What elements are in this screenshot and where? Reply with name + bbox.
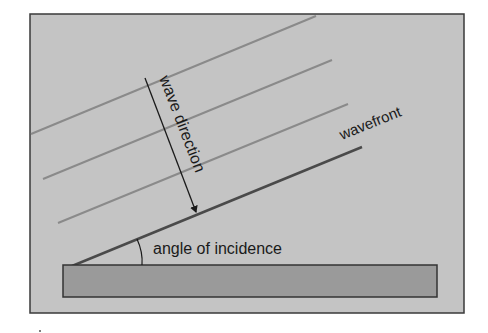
shoreline-bar [63,265,437,297]
corner-mark [39,330,41,332]
angle-of-incidence-label: angle of incidence [153,240,282,257]
wave-incidence-diagram: wave direction wavefront angle of incide… [0,0,488,333]
